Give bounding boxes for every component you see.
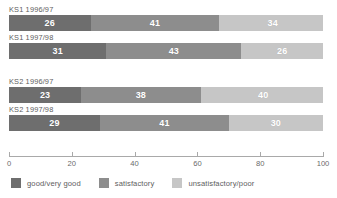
x-axis-tick-label: 40 xyxy=(130,159,138,169)
table-row: 26 41 34 xyxy=(9,15,323,31)
bar-segment-value: 26 xyxy=(45,19,55,28)
x-axis-tick-label: 80 xyxy=(256,159,264,169)
x-axis-tick xyxy=(135,152,136,157)
legend-swatch-icon xyxy=(99,178,109,188)
x-axis-tick-label: 0 xyxy=(7,159,11,169)
bar-category-label: KS2 1996/97 xyxy=(9,77,323,87)
x-axis-tick xyxy=(9,152,10,157)
x-axis-tick-label: 60 xyxy=(193,159,201,169)
x-axis-tick xyxy=(260,152,261,157)
bar-segment-good[interactable]: 26 xyxy=(9,15,91,31)
bar-segment-satisfactory[interactable]: 43 xyxy=(106,43,241,59)
bar-segment-unsatisfactory[interactable]: 30 xyxy=(229,115,323,131)
bar-segment-value: 41 xyxy=(150,19,160,28)
legend-label: unsatisfactory/poor xyxy=(188,179,254,188)
bar-segment-unsatisfactory[interactable]: 34 xyxy=(219,15,323,31)
bar-category-label: KS2 1997/98 xyxy=(9,105,323,115)
bar-group-ks1-1996-97: KS1 1996/97 26 41 34 xyxy=(9,5,323,31)
bar-segment-value: 23 xyxy=(40,91,50,100)
legend-swatch-icon xyxy=(172,178,182,188)
bar-group-ks1-1997-98: KS1 1997/98 31 43 26 xyxy=(9,33,323,59)
bar-segment-good[interactable]: 23 xyxy=(9,87,81,103)
x-axis-tick-label: 20 xyxy=(68,159,76,169)
bar-segment-value: 41 xyxy=(159,119,169,128)
bar-segment-value: 38 xyxy=(136,91,146,100)
bar-segment-satisfactory[interactable]: 38 xyxy=(81,87,200,103)
plot-area: KS1 1996/97 26 41 34 KS1 1997/98 31 xyxy=(9,5,323,150)
legend-label: satisfactory xyxy=(115,179,155,188)
bar-segment-value: 43 xyxy=(169,47,179,56)
legend-swatch-icon xyxy=(11,178,21,188)
table-row: 29 41 30 xyxy=(9,115,323,131)
bar-segment-value: 29 xyxy=(49,119,59,128)
bar-segment-unsatisfactory[interactable]: 40 xyxy=(201,87,323,103)
bar-segment-satisfactory[interactable]: 41 xyxy=(91,15,220,31)
bar-segment-good[interactable]: 31 xyxy=(9,43,106,59)
bar-segment-value: 26 xyxy=(277,47,287,56)
bar-category-label: KS1 1996/97 xyxy=(9,5,323,15)
table-row: 31 43 26 xyxy=(9,43,323,59)
x-axis-tick-label: 100 xyxy=(317,159,330,169)
bar-segment-good[interactable]: 29 xyxy=(9,115,100,131)
legend-item[interactable]: good/very good xyxy=(11,178,81,188)
bar-segment-value: 30 xyxy=(271,119,281,128)
x-axis-tick xyxy=(323,152,324,157)
table-row: 23 38 40 xyxy=(9,87,323,103)
legend: good/very goodsatisfactoryunsatisfactory… xyxy=(11,176,331,190)
legend-label: good/very good xyxy=(27,179,81,188)
legend-item[interactable]: unsatisfactory/poor xyxy=(172,178,254,188)
x-axis-line xyxy=(9,156,323,157)
bar-segment-value: 34 xyxy=(268,19,278,28)
stacked-bar-chart: KS1 1996/97 26 41 34 KS1 1997/98 31 xyxy=(0,0,337,198)
bar-segment-value: 31 xyxy=(52,47,62,56)
bar-segment-value: 40 xyxy=(258,91,268,100)
x-axis: 020406080100 xyxy=(9,152,323,172)
legend-item[interactable]: satisfactory xyxy=(99,178,155,188)
bar-category-label: KS1 1997/98 xyxy=(9,33,323,43)
bar-group-ks2-1997-98: KS2 1997/98 29 41 30 xyxy=(9,105,323,131)
x-axis-tick xyxy=(72,152,73,157)
bar-group-ks2-1996-97: KS2 1996/97 23 38 40 xyxy=(9,77,323,103)
x-axis-tick xyxy=(197,152,198,157)
bar-segment-satisfactory[interactable]: 41 xyxy=(100,115,229,131)
bar-segment-unsatisfactory[interactable]: 26 xyxy=(241,43,323,59)
